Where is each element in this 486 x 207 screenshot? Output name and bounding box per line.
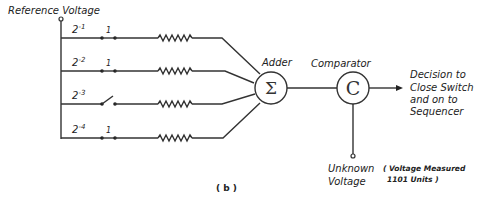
switch-state-label: 1 <box>106 126 111 135</box>
adder-label: Adder <box>261 57 293 68</box>
resistor-icon <box>158 101 192 107</box>
comparator-label: Comparator <box>311 58 372 69</box>
weight-label: 2-1 <box>72 23 85 35</box>
branch-2-2: 2-2 1 <box>61 56 254 83</box>
adder: Adder Σ <box>255 57 293 104</box>
weight-label: 2-3 <box>72 89 85 101</box>
branch-2-1: 2-1 1 <box>61 23 260 74</box>
reference-voltage-label: Reference Voltage <box>8 5 100 16</box>
output-decision-text: Decision to Close Switch and on to Seque… <box>410 69 477 117</box>
branch-2-3: 2-3 <box>61 89 255 107</box>
weight-label: 2-2 <box>72 56 86 68</box>
arrow-right-icon <box>396 85 403 91</box>
resistor-icon <box>158 35 192 41</box>
sigma-icon: Σ <box>265 78 277 98</box>
successive-approximation-diagram: Reference Voltage 2-1 1 2-2 1 2-3 <box>0 0 486 207</box>
reference-terminal-icon <box>59 17 63 21</box>
comparator: Comparator C <box>311 58 372 104</box>
switch-state-label: 1 <box>106 59 111 68</box>
figure-caption: ( b ) <box>216 183 237 193</box>
measured-note: ( Voltage Measured 1101 Units ) <box>383 164 468 184</box>
comparator-symbol-icon: C <box>346 77 361 99</box>
branch-2-4: 2-4 1 <box>61 103 260 141</box>
switch-state-label: 1 <box>106 26 111 35</box>
resistor-icon <box>158 135 192 141</box>
resistor-icon <box>158 68 192 74</box>
unknown-terminal-icon <box>351 154 355 158</box>
weight-label: 2-4 <box>72 123 85 135</box>
open-switch-blade <box>102 96 113 104</box>
unknown-voltage-label: Unknown Voltage <box>328 163 378 187</box>
